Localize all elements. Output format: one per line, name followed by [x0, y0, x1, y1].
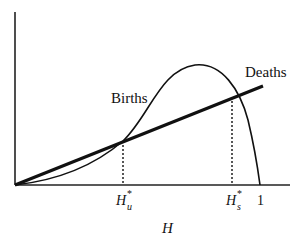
births-label: Births	[111, 90, 148, 106]
chart: Births Deaths H u * H s * 1 H	[0, 0, 300, 240]
hu-star-label: H u *	[115, 188, 132, 212]
svg-text:*: *	[237, 188, 242, 199]
svg-text:*: *	[127, 188, 132, 199]
x-axis-label: H	[161, 220, 174, 236]
tick-one-label: 1	[257, 193, 264, 208]
svg-text:H: H	[115, 193, 127, 208]
deaths-label: Deaths	[245, 64, 287, 80]
hs-star-label: H s *	[225, 188, 242, 212]
births-curve	[15, 65, 260, 185]
svg-text:H: H	[225, 193, 237, 208]
svg-text:u: u	[127, 201, 132, 212]
svg-text:s: s	[237, 201, 241, 212]
